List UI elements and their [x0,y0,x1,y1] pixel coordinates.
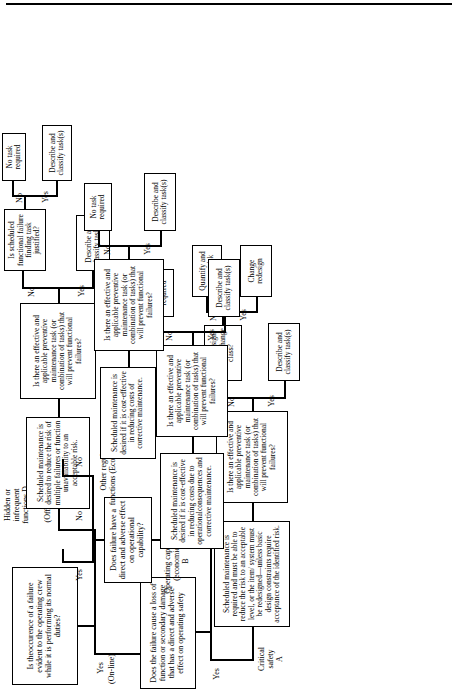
node-opcap-yes-task: Describe and classify task(s) [208,259,240,317]
edge-root-split [94,529,96,655]
label-econ-task-yes: Yes [144,237,153,261]
node-redesign-yes-task: Change redesign [240,245,272,297]
edge-hidden-q-stem [58,287,60,303]
node-econ-yes-task: Describe and classify task(s) [144,173,176,231]
edge-safety-split [210,539,212,661]
label-hidden-ff-no: No [16,187,25,209]
edge-safety-stem [196,631,210,633]
node-econ-no-task: No task required [84,183,112,231]
edge-hidden-to-policy [58,509,60,531]
label-opcap-task-no: No [166,325,175,347]
page-border-line [6,3,452,5]
edge-opcap-q-no [62,475,92,477]
label-root-yes: Yes [97,655,106,681]
node-econ-task-question: Is there an effective and applicable pre… [94,259,164,351]
edge-opcap-task-stem [192,331,194,345]
label-redesign-yes: Yes [240,303,249,327]
edge-hidden-ff-no [12,181,14,197]
node-hidden-ff-no-task: No task required [2,133,26,181]
screenshot-root: Is theoccurence of a failure evident to … [0,0,457,695]
edge-root-stem [78,625,94,627]
label-critical-q-no: No [228,391,237,413]
label-opcap-task-yes: Yes [208,323,217,347]
node-critical-policy: Scheduled maintenance is required and mu… [214,521,290,627]
label-hidden-q-no: No [28,281,37,303]
edge-econ-task-stem [128,245,130,259]
edge-critical-q-stem [252,397,254,411]
flowchart-canvas: Is theoccurence of a failure evident to … [0,0,457,695]
label-safety-yes: Yes [213,661,222,687]
edge-root-no [60,529,96,531]
edge-econ-task-no [98,231,100,247]
edge-critical-q-yes [284,381,286,399]
label-hidden-ff-yes: Yes [42,185,51,209]
label-root-yes-online: (On-line) [108,649,117,689]
node-econ-policy: Scheduled maintenance is desired if it i… [100,367,156,459]
edge-hidden-policy-to-question [58,399,60,417]
edge-econ-policy-to-question [128,351,130,367]
edge-critical-to-policy [252,627,254,661]
edge-econ-task-yes [160,231,162,247]
label-critical-q-yes: Yes [268,389,277,413]
node-opcap-policy: Scheduled maintenance is desired if it i… [160,453,224,549]
label-opcap-yes: Yes [76,563,85,587]
node-root-question: Is theoccurence of a failure evident to … [12,567,78,685]
edge-redesign-yes [256,297,258,313]
edge-critical-policy-to-question [252,503,254,521]
node-hidden-question: Is there an effective and applicable pre… [20,303,96,399]
node-hidden-ff-yes-task: Describe and classify task(s) [42,125,72,181]
edge-opcap-q-split [92,475,94,563]
node-critical-yes-task: Describe and classify task(s) [268,323,300,381]
edge-opcap-policy-to-question [192,437,194,453]
edge-opcap-label-to-policy [62,549,64,563]
edge-econ-label-to-policy [62,459,64,477]
node-opcap-task-question: Is there an effective and applicable pre… [156,345,228,437]
label-hidden-q-yes: Yes [78,279,87,303]
edge-opcap-task-yes [224,317,226,333]
label-opcap-no: No [76,451,85,473]
edge-hidden-q-no [22,271,24,289]
label-econ-task-no: No [104,239,113,261]
edge-hidden-ff-yes [56,181,58,197]
label-critical-safety: Critical safety A [258,629,285,689]
node-hidden-ff-question: Is scheduled functional failure finding … [4,209,46,271]
